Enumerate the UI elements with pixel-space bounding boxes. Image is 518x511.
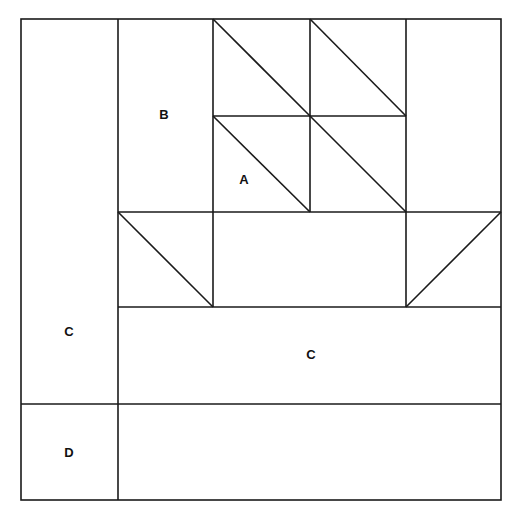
basket-right-diagonal xyxy=(406,212,501,307)
diagonal-a1 xyxy=(213,19,310,116)
label-c-left: C xyxy=(64,324,74,339)
label-d: D xyxy=(64,445,73,460)
label-b: B xyxy=(159,107,168,122)
diagonal-a4 xyxy=(310,116,406,212)
basket-left-diagonal xyxy=(118,212,213,307)
quilt-block-diagram: B A C C D xyxy=(0,0,518,511)
diagonal-a3 xyxy=(213,116,310,212)
label-a: A xyxy=(239,172,249,187)
diagonal-a2 xyxy=(310,19,406,116)
label-c-bottom: C xyxy=(306,347,316,362)
outer-border xyxy=(21,19,501,500)
